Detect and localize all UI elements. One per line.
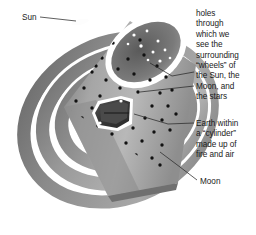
label-sun: Sun	[22, 13, 37, 22]
earth-drum	[92, 96, 133, 131]
leader-sun	[40, 17, 76, 21]
caption-earth: Earth within a “cylinder” made up of fir…	[196, 119, 256, 161]
sun-marker	[68, 16, 91, 28]
label-moon: Moon	[200, 177, 220, 186]
figure-container: holes through which we see the surroundi…	[0, 0, 256, 235]
caption-holes: holes through which we see the surroundi…	[196, 9, 256, 103]
